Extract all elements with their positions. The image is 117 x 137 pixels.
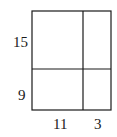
label-bottom-left: 11	[53, 117, 67, 132]
label-left-top: 15	[13, 35, 28, 50]
outer-rectangle	[32, 11, 111, 110]
label-left-bottom: 9	[18, 88, 26, 103]
label-bottom-right: 3	[94, 117, 102, 132]
